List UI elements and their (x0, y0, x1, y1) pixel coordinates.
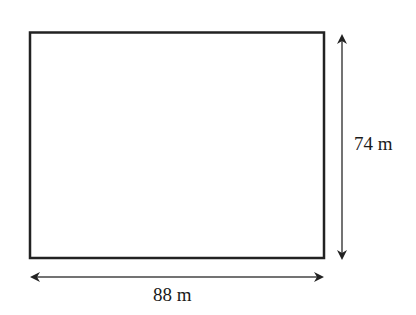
width-label: 88 m (153, 284, 192, 305)
height-label: 74 m (354, 133, 393, 154)
rectangle-diagram: 74 m 88 m (0, 0, 416, 315)
rectangle-shape (30, 33, 324, 259)
